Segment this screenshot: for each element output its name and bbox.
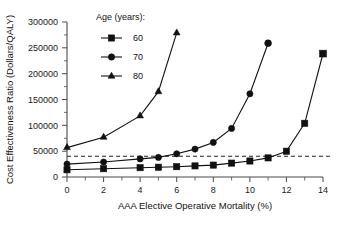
y-tick-label-0: 0 xyxy=(53,172,58,182)
data-point-60-9 xyxy=(229,160,235,166)
data-point-60-0 xyxy=(64,167,70,173)
data-point-60-7 xyxy=(192,163,198,169)
chart-figure: 0 50000 100000 150000 200000 250000 3000… xyxy=(0,0,346,226)
legend-label-80: 80 xyxy=(133,71,143,81)
y-tick-label-150000: 150000 xyxy=(28,95,58,105)
data-point-70-7 xyxy=(192,146,198,152)
legend-label-70: 70 xyxy=(133,52,143,62)
data-point-70-6 xyxy=(174,151,180,157)
data-point-70-2 xyxy=(101,159,107,165)
circle-icon xyxy=(108,54,114,60)
chart-background xyxy=(0,0,346,226)
data-point-70-5 xyxy=(155,154,161,160)
y-tick-label-100000: 100000 xyxy=(28,121,58,131)
y-tick-label-300000: 300000 xyxy=(28,17,58,27)
data-point-60-12 xyxy=(283,148,289,154)
y-axis-title: Cost Effectiveness Ratio (Dollars/QALY) xyxy=(4,15,15,184)
data-point-60-11 xyxy=(265,155,271,161)
data-point-60-2 xyxy=(101,166,107,172)
data-point-70-4 xyxy=(137,156,143,162)
y-tick-label-200000: 200000 xyxy=(28,69,58,79)
chart-svg: 0 50000 100000 150000 200000 250000 3000… xyxy=(0,0,346,226)
data-point-60-10 xyxy=(247,158,253,164)
data-point-60-4 xyxy=(137,165,143,171)
data-point-60-13 xyxy=(302,120,308,126)
data-point-60-6 xyxy=(174,164,180,170)
data-point-60-5 xyxy=(155,164,161,170)
x-tick-label-2: 2 xyxy=(101,185,106,195)
y-tick-label-250000: 250000 xyxy=(28,43,58,53)
data-point-70-9 xyxy=(229,125,235,131)
data-point-70-10 xyxy=(247,91,253,97)
x-tick-label-6: 6 xyxy=(174,185,179,195)
square-icon xyxy=(108,35,114,41)
data-point-70-8 xyxy=(210,139,216,145)
x-tick-label-4: 4 xyxy=(138,185,143,195)
x-axis-title: AAA Elective Operative Mortality (%) xyxy=(118,200,272,211)
data-point-70-11 xyxy=(265,40,272,47)
data-point-70-0 xyxy=(64,161,70,167)
legend-label-60: 60 xyxy=(133,33,143,43)
data-point-60-14 xyxy=(320,50,327,57)
x-tick-label-8: 8 xyxy=(211,185,216,195)
x-tick-label-10: 10 xyxy=(245,185,255,195)
y-tick-label-50000: 50000 xyxy=(33,146,58,156)
x-tick-label-14: 14 xyxy=(318,185,328,195)
data-point-60-8 xyxy=(210,162,216,168)
x-tick-label-12: 12 xyxy=(281,185,291,195)
x-tick-label-0: 0 xyxy=(64,185,69,195)
legend-title: Age (years): xyxy=(96,12,145,22)
